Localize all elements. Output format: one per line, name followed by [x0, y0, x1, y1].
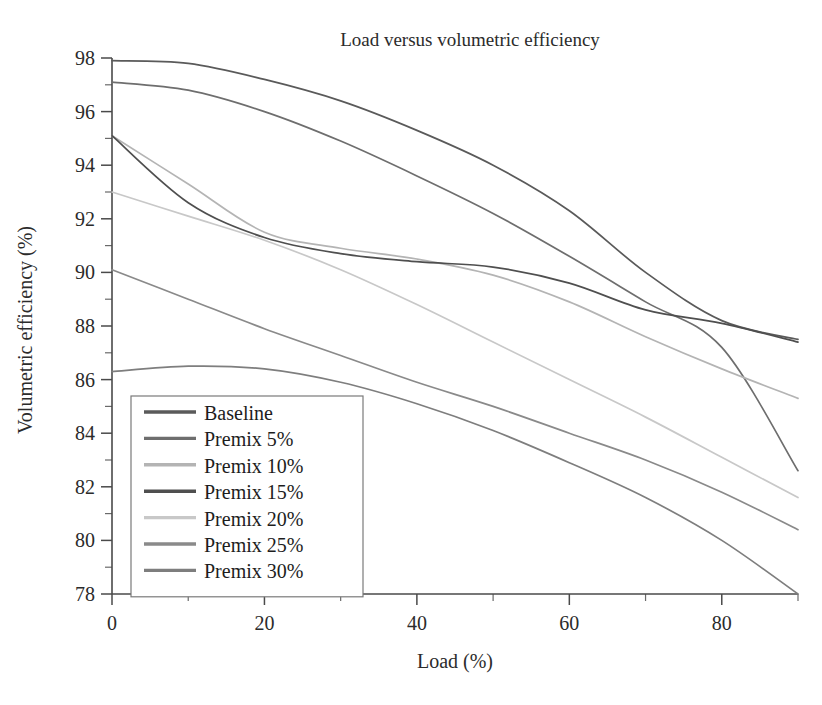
y-tick-label: 98 [75, 47, 95, 69]
x-tick-label: 80 [712, 612, 732, 634]
legend-label-5: Premix 25% [204, 534, 303, 556]
y-tick-label: 90 [75, 261, 95, 283]
y-tick-label: 80 [75, 529, 95, 551]
x-tick-label: 60 [559, 612, 579, 634]
y-axis-ticks: 7880828486889092949698 [75, 47, 112, 605]
chart-figure: Load versus volumetric efficiency Volume… [0, 0, 822, 705]
y-tick-label: 96 [75, 101, 95, 123]
y-axis-title: Volumetric efficiency (%) [14, 226, 37, 434]
legend-label-1: Premix 5% [204, 428, 293, 450]
x-axis-ticks: 020406080 [107, 594, 798, 634]
series-line-0 [112, 61, 798, 340]
legend-label-0: Baseline [204, 402, 273, 424]
x-tick-label: 0 [107, 612, 117, 634]
chart-legend: BaselinePremix 5%Premix 10%Premix 15%Pre… [131, 396, 363, 597]
x-axis-title: Load (%) [417, 650, 493, 673]
series-line-3 [112, 136, 798, 342]
y-tick-label: 84 [75, 422, 95, 444]
legend-label-6: Premix 30% [204, 560, 303, 582]
legend-label-2: Premix 10% [204, 455, 303, 477]
y-tick-label: 92 [75, 208, 95, 230]
x-tick-label: 40 [407, 612, 427, 634]
y-tick-label: 82 [75, 476, 95, 498]
y-tick-label: 86 [75, 369, 95, 391]
series-line-2 [112, 136, 798, 399]
y-tick-label: 78 [75, 583, 95, 605]
legend-label-3: Premix 15% [204, 481, 303, 503]
legend-label-4: Premix 20% [204, 508, 303, 530]
x-tick-label: 20 [254, 612, 274, 634]
line-chart: Load versus volumetric efficiency Volume… [0, 0, 822, 705]
y-tick-label: 94 [75, 154, 95, 176]
y-tick-label: 88 [75, 315, 95, 337]
chart-title: Load versus volumetric efficiency [340, 29, 600, 50]
